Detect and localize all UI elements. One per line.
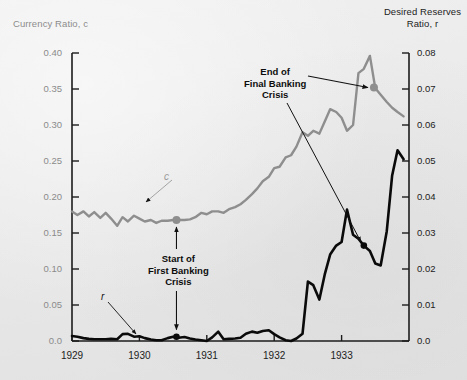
data-marker-r-3 <box>361 242 368 249</box>
series-lines <box>72 56 404 341</box>
tick-marks <box>72 53 409 341</box>
leader-series-key-c <box>146 180 172 202</box>
left-tick-label-7: 0.35 <box>14 84 62 94</box>
left-tick-label-5: 0.25 <box>14 156 62 166</box>
left-tick-label-1: 0.05 <box>14 300 62 310</box>
left-tick-label-3: 0.15 <box>14 228 62 238</box>
annotation-end-line3: Crisis <box>244 89 306 101</box>
right-tick-label-6: 0.06 <box>417 120 457 130</box>
left-tick-label-0: 0.0 <box>14 336 62 346</box>
plot-area <box>0 0 467 380</box>
annotation-end-of-final-banking-crisis: End of Final Banking Crisis <box>244 66 306 101</box>
annotation-start-line2: First Banking <box>148 265 209 277</box>
x-tick-label-2: 1931 <box>185 351 229 361</box>
left-tick-label-6: 0.30 <box>14 120 62 130</box>
data-marker-c-2 <box>370 84 378 92</box>
right-tick-label-4: 0.04 <box>417 192 457 202</box>
data-marker-c-0 <box>172 216 180 224</box>
series-line-c <box>72 56 404 226</box>
right-axis-title-line2: Ratio, r <box>384 18 461 30</box>
axis-lines <box>72 53 409 341</box>
x-tick-label-4: 1933 <box>320 351 364 361</box>
x-tick-label-0: 1929 <box>50 351 94 361</box>
series-line-r <box>72 150 404 341</box>
right-axis-title-line1: Desired Reserves <box>384 6 461 18</box>
right-tick-label-0: 0.0 <box>417 336 457 346</box>
annotation-end-line1: End of <box>244 66 306 78</box>
leader-series-key-r <box>108 302 136 334</box>
right-axis-title: Desired Reserves Ratio, r <box>384 6 461 29</box>
annotation-start-line3: Crisis <box>148 276 209 288</box>
right-tick-label-3: 0.03 <box>417 228 457 238</box>
series-key-c: c <box>164 171 169 182</box>
right-tick-label-2: 0.02 <box>417 264 457 274</box>
annotation-start-line1: Start of <box>148 253 209 265</box>
chart-figure: Currency Ratio, c Desired Reserves Ratio… <box>0 0 467 380</box>
left-axis-title: Currency Ratio, c <box>13 18 88 30</box>
right-tick-label-5: 0.05 <box>417 156 457 166</box>
annotation-start-of-first-banking-crisis: Start of First Banking Crisis <box>148 253 209 288</box>
right-tick-label-1: 0.01 <box>417 300 457 310</box>
left-tick-label-8: 0.40 <box>14 48 62 58</box>
left-tick-label-4: 0.20 <box>14 192 62 202</box>
series-key-r: r <box>101 291 104 302</box>
x-tick-label-3: 1932 <box>252 351 296 361</box>
right-tick-label-7: 0.07 <box>417 84 457 94</box>
left-tick-label-2: 0.10 <box>14 264 62 274</box>
data-marker-r-1 <box>173 333 180 340</box>
annotation-end-line2: Final Banking <box>244 78 306 90</box>
x-tick-label-1: 1930 <box>117 351 161 361</box>
right-tick-label-8: 0.08 <box>417 48 457 58</box>
